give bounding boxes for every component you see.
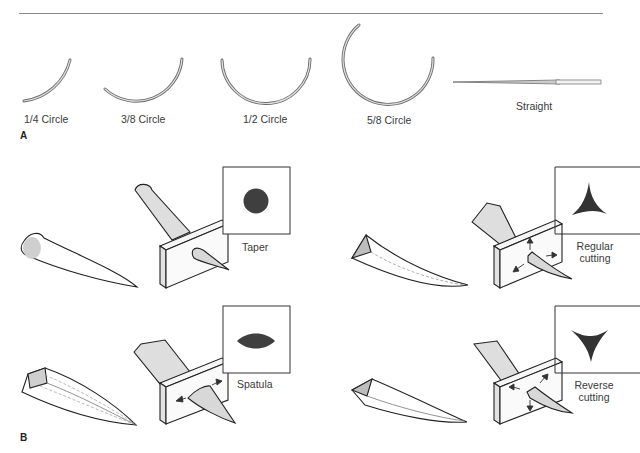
label-quarter-circle: 1/4 Circle — [24, 113, 68, 125]
label-taper: Taper — [242, 241, 268, 253]
taper-block-icon — [135, 184, 229, 288]
label-five-eighths-circle: 5/8 Circle — [367, 114, 411, 126]
label-reverse-cutting-line2: cutting — [570, 391, 618, 403]
taper-needle-icon — [21, 233, 137, 287]
label-half-circle: 1/2 Circle — [243, 113, 287, 125]
taper-cross-section-icon — [223, 167, 290, 234]
needle-straight-icon — [453, 80, 601, 84]
label-regular-cutting: Regular cutting — [573, 240, 617, 264]
reverse-cutting-cross-section-icon — [555, 306, 640, 373]
label-reverse-cutting-line1: Reverse — [570, 379, 618, 391]
label-reverse-cutting: Reverse cutting — [570, 379, 618, 403]
spatula-cross-section-icon — [223, 306, 290, 373]
regular-cutting-needle-icon — [352, 235, 468, 286]
label-spatula: Spatula — [237, 378, 273, 390]
regular-cutting-cross-section-icon — [555, 167, 640, 234]
regular-cutting-block-icon — [472, 203, 572, 288]
label-regular-cutting-line1: Regular — [573, 240, 617, 252]
figure-canvas — [0, 0, 640, 453]
needle-quarter-circle-icon — [24, 60, 70, 101]
spatula-needle-icon — [22, 368, 136, 425]
panel-a-letter: A — [20, 130, 27, 141]
label-straight: Straight — [516, 100, 552, 112]
needle-five-eighths-circle-icon — [343, 25, 433, 104]
label-regular-cutting-line2: cutting — [573, 252, 617, 264]
reverse-cutting-block-icon — [474, 341, 572, 424]
needle-three-eighths-circle-icon — [105, 59, 182, 101]
reverse-cutting-needle-icon — [352, 379, 467, 422]
needle-half-circle-icon — [222, 59, 310, 104]
panel-b-letter: B — [20, 432, 27, 443]
label-three-eighths-circle: 3/8 Circle — [121, 113, 165, 125]
